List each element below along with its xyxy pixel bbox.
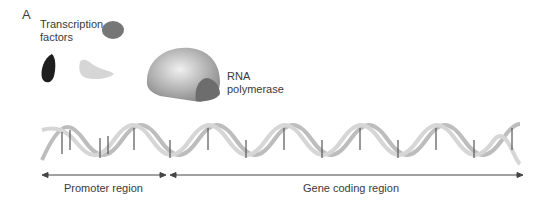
rna-polymerase-icon <box>147 48 220 102</box>
diagram-graphics <box>0 0 547 210</box>
promoter-region-label: Promoter region <box>64 182 143 195</box>
transcription-factor-dark-icon <box>41 54 55 82</box>
promoter-region-arrow <box>42 173 166 178</box>
dna-double-helix-icon <box>42 124 520 164</box>
transcription-factor-oval-icon <box>102 21 124 39</box>
transcription-factor-light-icon <box>79 60 114 79</box>
gene-coding-region-arrow <box>170 173 523 178</box>
gene-coding-region-label: Gene coding region <box>303 182 399 195</box>
